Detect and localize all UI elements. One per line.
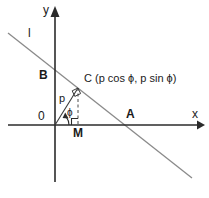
geometry-figure: y x l B 0 A M p ϕ C (p cos ϕ, p sin ϕ) (0, 0, 209, 198)
point-a-label: A (126, 108, 135, 120)
x-axis-arrow-icon (197, 121, 205, 130)
angle-phi-label: ϕ (67, 108, 73, 118)
point-b-label: B (39, 69, 48, 81)
y-axis-arrow-icon (51, 6, 60, 17)
y-axis-label: y (43, 4, 49, 16)
line-l (8, 33, 192, 178)
distance-p-label: p (59, 93, 65, 104)
origin-label: 0 (38, 110, 45, 122)
point-c-label: C (p cos ϕ, p sin ϕ) (84, 73, 176, 84)
point-m-label: M (73, 127, 83, 139)
right-angle-marker-at-m-icon (72, 119, 79, 126)
figure-canvas (0, 0, 209, 198)
line-l-label: l (28, 27, 31, 39)
x-axis-label: x (192, 108, 198, 120)
